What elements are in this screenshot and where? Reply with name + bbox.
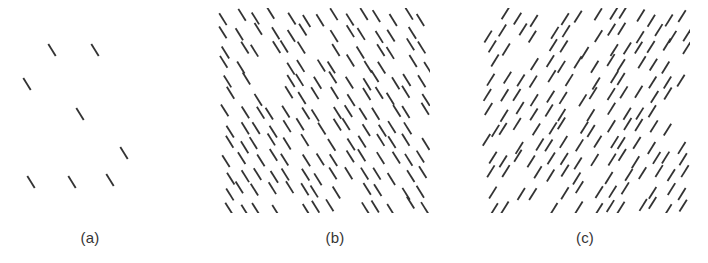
- line-segment: [357, 47, 364, 59]
- line-segment: [550, 39, 557, 51]
- line-segment: [418, 75, 425, 87]
- line-segment: [358, 149, 365, 161]
- line-segment: [269, 182, 276, 194]
- line-segment: [373, 10, 380, 22]
- line-segment: [299, 24, 306, 36]
- line-segment: [252, 203, 259, 213]
- line-segment: [662, 62, 669, 74]
- line-segment: [334, 107, 341, 119]
- line-segment: [303, 204, 310, 213]
- line-segment: [650, 59, 657, 71]
- line-segment: [587, 109, 594, 121]
- line-segment: [422, 138, 429, 150]
- line-segment: [301, 134, 308, 146]
- line-segment: [499, 155, 506, 167]
- line-segment: [409, 27, 416, 39]
- line-segment: [513, 118, 520, 130]
- line-segment: [402, 86, 409, 98]
- line-segment: [632, 156, 639, 168]
- line-segment: [372, 108, 379, 120]
- line-segment: [575, 202, 582, 213]
- line-segment: [363, 88, 370, 100]
- line-segment: [594, 136, 601, 148]
- line-segment: [252, 12, 259, 24]
- line-segment: [226, 126, 233, 138]
- line-segment: [545, 139, 552, 151]
- line-segment: [311, 87, 318, 99]
- line-segment: [499, 25, 506, 37]
- line-segment: [547, 55, 554, 67]
- line-segment: [618, 137, 625, 149]
- line-segment: [530, 76, 537, 88]
- line-segment: [623, 108, 630, 120]
- line-segment: [328, 139, 335, 151]
- line-segment: [271, 171, 278, 183]
- line-segment: [254, 168, 261, 180]
- line-segment: [347, 94, 354, 106]
- line-segment: [653, 152, 660, 164]
- line-segment: [527, 155, 534, 167]
- line-segment: [581, 47, 588, 59]
- line-segment: [387, 47, 394, 59]
- line-segment: [405, 8, 412, 20]
- line-segment: [489, 152, 496, 164]
- line-segment: [358, 136, 365, 148]
- line-segment: [346, 77, 353, 89]
- line-segment: [268, 134, 275, 146]
- line-segment: [270, 149, 277, 161]
- line-segment: [303, 154, 310, 166]
- line-segment: [377, 152, 384, 164]
- line-segment: [664, 204, 671, 213]
- line-segment: [317, 153, 324, 165]
- line-segment: [636, 108, 643, 120]
- line-segment: [417, 151, 424, 163]
- line-segment: [388, 121, 395, 133]
- line-segment: [500, 110, 507, 122]
- line-segment: [27, 176, 34, 188]
- line-segment: [255, 23, 262, 35]
- line-segment: [272, 27, 279, 39]
- line-segment: [591, 154, 598, 166]
- line-segment: [318, 123, 325, 135]
- line-segment: [664, 77, 671, 89]
- line-segment: [257, 154, 264, 166]
- line-segment: [387, 204, 394, 213]
- line-segment: [331, 87, 338, 99]
- panel-a-segments-canvas: [10, 30, 170, 212]
- line-segment: [318, 60, 325, 72]
- line-segment: [649, 76, 656, 88]
- line-segment: [345, 167, 352, 179]
- line-segment: [502, 44, 509, 56]
- line-segment: [330, 8, 337, 20]
- panel-c-segments-canvas: [482, 8, 690, 213]
- line-segment: [421, 103, 428, 115]
- panel-a-label: (a): [40, 229, 140, 247]
- line-segment: [334, 119, 341, 131]
- line-segment: [238, 9, 245, 21]
- line-segment: [551, 27, 558, 39]
- line-segment: [388, 173, 395, 185]
- line-segment: [402, 134, 409, 146]
- line-segment: [548, 152, 555, 164]
- line-segment: [330, 154, 337, 166]
- line-segment: [312, 201, 319, 213]
- line-segment: [678, 142, 685, 154]
- line-segment: [379, 125, 386, 137]
- line-segment: [252, 122, 259, 134]
- line-segment: [219, 26, 226, 38]
- line-segment: [529, 188, 536, 200]
- line-segment: [550, 203, 557, 213]
- line-segment: [255, 94, 262, 106]
- line-segment: [222, 47, 229, 59]
- line-segment: [393, 152, 400, 164]
- line-segment: [518, 188, 525, 200]
- line-segment: [407, 197, 414, 209]
- line-segment: [326, 199, 333, 211]
- line-segment: [514, 13, 521, 25]
- line-segment: [377, 134, 384, 146]
- panel-a: [10, 30, 170, 212]
- line-segment: [242, 106, 249, 118]
- line-segment: [241, 205, 248, 213]
- line-segment: [484, 31, 491, 43]
- line-segment: [257, 107, 264, 119]
